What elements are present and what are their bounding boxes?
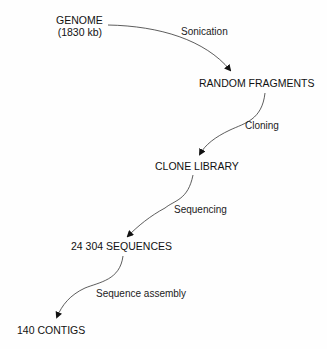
edge-label-cloning: Cloning — [245, 120, 279, 132]
node-clone-library: CLONE LIBRARY — [155, 160, 239, 172]
flow-diagram: GENOME (1830 kb) Sonication RANDOM FRAGM… — [0, 0, 327, 349]
node-genome: GENOME (1830 kb) — [56, 14, 103, 38]
node-contigs: 140 CONTIGS — [17, 324, 85, 336]
node-random-fragments: RANDOM FRAGMENTS — [199, 77, 315, 89]
edge-label-sonication: Sonication — [181, 26, 228, 38]
arrow-sequence-assembly — [57, 256, 123, 317]
edge-label-sequence-assembly: Sequence assembly — [96, 288, 186, 300]
node-genome-size: (1830 kb) — [57, 26, 103, 38]
node-sequences: 24 304 SEQUENCES — [71, 240, 172, 252]
node-genome-title: GENOME — [56, 14, 103, 26]
edge-label-sequencing: Sequencing — [174, 204, 227, 216]
